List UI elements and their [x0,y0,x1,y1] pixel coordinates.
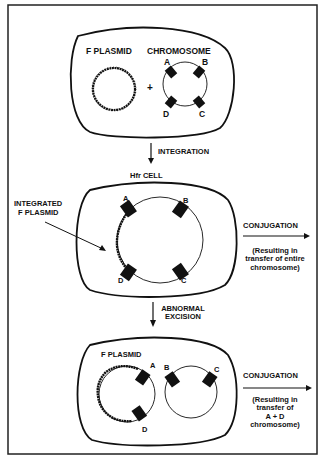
marker-b-block [193,66,206,79]
conjugation-label-1: CONJUGATION [243,222,298,230]
conjugation-arrowhead-2 [306,385,312,391]
marker-d-block [131,405,147,421]
marker-b-label: B [183,197,188,205]
integrated-plasmid-segment [117,212,128,268]
marker-c-label: C [214,366,219,374]
integration-arrowhead [148,158,154,164]
marker-d-label: D [118,277,123,285]
marker-b-block [164,371,180,387]
abnormal-excision-label: ABNORMAL EXCISION [158,305,208,322]
marker-d-label: D [142,426,147,434]
conjugation-label-2: CONJUGATION [243,372,298,380]
marker-a-block [135,369,151,385]
f-plasmid-circle [93,68,135,110]
chromosome-label: CHROMOSOME [147,47,211,56]
marker-a-label: A [150,362,155,370]
excision-label-line-2: EXCISION [158,313,208,321]
integrated-f-plasmid-label-line2: F PLASMID [18,209,58,217]
conjugation-arrowhead-1 [304,233,310,239]
marker-c-label: C [199,110,205,119]
f-prime-plasmid-segment [98,366,138,421]
conjugation-note-2: (Resulting in transfer of A + D chromoso… [241,396,309,429]
integrated-f-plasmid-label-line1: INTEGRATED [14,200,62,208]
f-plasmid-label-3: F PLASMID [101,351,141,359]
marker-a-label: A [123,195,128,203]
note-line-3: chromosome) [241,264,309,272]
integration-label: INTEGRATION [158,148,209,156]
hfr-cell-label: Hfr CELL [130,172,163,180]
marker-a-label: A [164,58,170,67]
pointer-arrow-line [45,222,103,249]
marker-c-label: C [181,277,186,285]
excision-arrowhead [150,320,156,327]
marker-a-block [165,66,178,79]
marker-d-label: D [163,110,169,119]
marker-d-block [165,96,178,109]
note-line-4: chromosome) [241,421,309,429]
conjugation-note-1: (Resulting in transfer of entire chromos… [241,247,309,272]
cell-2 [77,183,237,297]
f-plasmid-label: F PLASMID [86,47,132,56]
plus-sign: + [147,82,153,93]
marker-b-label: B [164,364,169,372]
diagram: F PLASMID CHROMOSOME + A B C D INTEGRATI… [0,0,322,458]
marker-b-label: B [202,58,208,67]
marker-c-block [193,96,206,109]
